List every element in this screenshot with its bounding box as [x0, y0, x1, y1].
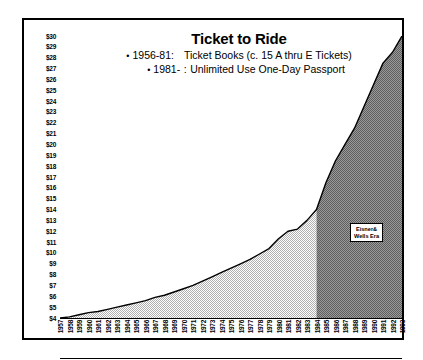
- x-axis-tick: 1969: [171, 320, 178, 333]
- era-annotation-line1: Eisner&: [354, 226, 379, 233]
- area-light: [60, 210, 317, 318]
- x-axis-tick: 1957: [57, 320, 64, 333]
- chart-frame: Ticket to Ride • 1956-81: Ticket Books (…: [22, 18, 404, 340]
- y-axis-tick: $8: [49, 271, 56, 278]
- y-axis-tick: $23: [46, 108, 56, 115]
- x-axis-tick: 1972: [200, 320, 207, 333]
- y-axis-tick: $28: [46, 54, 56, 61]
- x-axis-tick: 1981: [285, 320, 292, 333]
- area-dark: [317, 36, 403, 318]
- x-axis-tick: 1993: [399, 320, 406, 333]
- y-axis-tick: $26: [46, 76, 56, 83]
- y-axis-tick: $29: [46, 43, 56, 50]
- y-axis-tick: $5: [49, 304, 56, 311]
- x-axis-tick: 1971: [190, 320, 197, 333]
- y-axis-tick: $17: [46, 174, 56, 181]
- x-axis-tick: 1962: [105, 320, 112, 333]
- y-axis-tick: $16: [46, 184, 56, 191]
- x-axis-tick: 1991: [380, 320, 387, 333]
- x-axis-tick: 1967: [152, 320, 159, 333]
- x-axis-tick: 1979: [266, 320, 273, 333]
- x-axis: 1957195819591960196119621963196419651966…: [60, 320, 402, 360]
- area-chart-svg: [60, 36, 402, 318]
- x-axis-tick: 1988: [352, 320, 359, 333]
- x-axis-baseline: [60, 358, 402, 359]
- x-axis-tick: 1976: [238, 320, 245, 333]
- y-axis-tick: $11: [46, 239, 56, 246]
- y-axis-tick: $4: [49, 315, 56, 322]
- y-axis-tick: $10: [46, 249, 56, 256]
- x-axis-tick: 1982: [295, 320, 302, 333]
- y-axis-tick: $6: [49, 293, 56, 300]
- y-axis-tick: $22: [46, 119, 56, 126]
- x-axis-tick: 1986: [333, 320, 340, 333]
- x-axis-tick: 1977: [247, 320, 254, 333]
- y-axis-tick: $30: [46, 33, 56, 40]
- x-axis-tick: 1963: [114, 320, 121, 333]
- x-axis-tick: 1992: [390, 320, 397, 333]
- x-axis-tick: 1965: [133, 320, 140, 333]
- x-axis-tick: 1970: [181, 320, 188, 333]
- y-axis: $30$29$28$27$26$25$24$23$22$21$20$19$18$…: [24, 36, 58, 318]
- era-annotation: Eisner& Wells Era: [350, 223, 383, 242]
- y-axis-tick: $14: [46, 206, 56, 213]
- x-axis-tick: 1978: [257, 320, 264, 333]
- x-axis-tick: 1975: [228, 320, 235, 333]
- era-annotation-line2: Wells Era: [354, 233, 379, 240]
- x-axis-tick: 1987: [342, 320, 349, 333]
- y-axis-tick: $7: [49, 282, 56, 289]
- y-axis-tick: $27: [46, 65, 56, 72]
- x-axis-tick: 1980: [276, 320, 283, 333]
- x-axis-tick: 1960: [86, 320, 93, 333]
- y-axis-tick: $20: [46, 141, 56, 148]
- y-axis-tick: $21: [46, 130, 56, 137]
- x-axis-line: [60, 318, 402, 319]
- x-axis-tick: 1968: [162, 320, 169, 333]
- x-axis-tick: 1958: [67, 320, 74, 333]
- y-axis-tick: $24: [46, 98, 56, 105]
- x-axis-tick: 1989: [361, 320, 368, 333]
- x-axis-tick: 1964: [124, 320, 131, 333]
- y-axis-tick: $13: [46, 217, 56, 224]
- y-axis-tick: $18: [46, 163, 56, 170]
- y-axis-tick: $25: [46, 87, 56, 94]
- x-axis-tick: 1983: [304, 320, 311, 333]
- y-axis-tick: $9: [49, 260, 56, 267]
- y-axis-tick: $12: [46, 228, 56, 235]
- x-axis-tick: 1985: [323, 320, 330, 333]
- y-axis-tick: $15: [46, 195, 56, 202]
- x-axis-tick: 1966: [143, 320, 150, 333]
- x-axis-tick: 1959: [76, 320, 83, 333]
- x-axis-tick: 1974: [219, 320, 226, 333]
- plot-area: [60, 36, 402, 318]
- x-axis-tick: 1961: [95, 320, 102, 333]
- x-axis-tick: 1973: [209, 320, 216, 333]
- x-axis-tick: 1984: [314, 320, 321, 333]
- x-axis-tick: 1990: [371, 320, 378, 333]
- y-axis-tick: $19: [46, 152, 56, 159]
